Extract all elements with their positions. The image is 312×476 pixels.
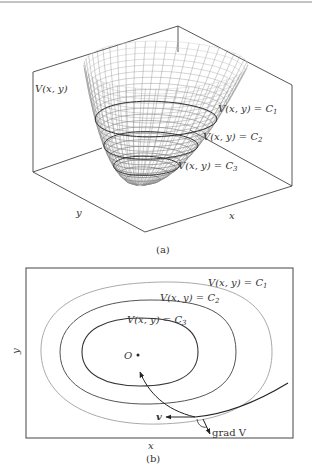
level-label-c3: V(x, y) = C3 xyxy=(127,314,187,327)
axis-label-y: y xyxy=(10,348,21,355)
velocity-label: v xyxy=(156,411,162,422)
gradient-label: grad V xyxy=(212,427,247,438)
panel-a: V(x, y) V(x, y) = C1 V(x, y) = C2 V(x, y… xyxy=(33,26,292,255)
mesh-meridian xyxy=(84,65,137,185)
origin-label: O xyxy=(124,350,132,361)
contour-c3 xyxy=(82,318,198,386)
level-label-c1: V(x, y) = C1 xyxy=(218,103,278,116)
mesh-meridian xyxy=(126,43,139,184)
level-label-c1: V(x, y) = C1 xyxy=(208,277,268,290)
trajectory-to-origin xyxy=(140,372,195,417)
trajectory xyxy=(195,383,288,417)
mesh-meridian xyxy=(118,44,139,184)
axis-label-x: x xyxy=(148,440,154,451)
caption-a: (a) xyxy=(156,244,170,255)
mesh-meridian xyxy=(103,48,138,184)
axis-label-y: y xyxy=(75,207,82,218)
origin-point xyxy=(137,354,140,357)
gradient-arrow xyxy=(203,419,210,434)
box-edge xyxy=(33,148,102,172)
figure: V(x, y) V(x, y) = C1 V(x, y) = C2 V(x, y… xyxy=(0,0,312,476)
contour-c1 xyxy=(41,282,272,424)
surface-label: V(x, y) xyxy=(35,83,68,94)
box-edge xyxy=(178,26,292,85)
level-label-c3: V(x, y) = C3 xyxy=(178,160,238,173)
axis-label-x: x xyxy=(229,210,235,221)
caption-b: (b) xyxy=(146,453,160,464)
box-edge xyxy=(145,186,292,232)
box-3d xyxy=(33,26,292,232)
panel-b: O v grad V V(x, y) = C3 V(x, y) = C2 V(x… xyxy=(10,268,293,464)
